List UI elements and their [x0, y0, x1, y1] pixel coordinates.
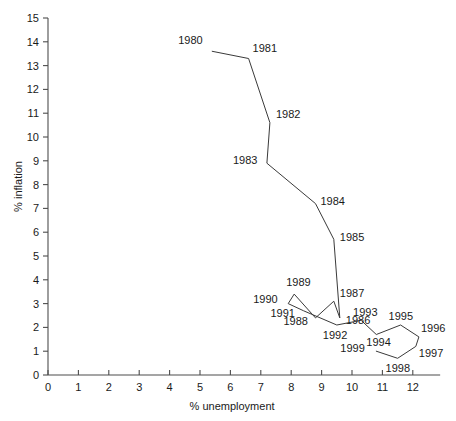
y-axis-ticks — [43, 18, 48, 375]
y-tick-label: 4 — [33, 274, 39, 286]
x-tick-label: 10 — [346, 381, 358, 393]
x-tick-label: 2 — [106, 381, 112, 393]
phillips-curve-chart: 0123456789101112131415 0123456789101112 … — [0, 0, 456, 421]
x-tick-label: 6 — [227, 381, 233, 393]
y-tick-label: 8 — [33, 179, 39, 191]
y-tick-label: 0 — [33, 369, 39, 381]
data-point-label: 1998 — [386, 362, 410, 374]
y-tick-label: 14 — [27, 36, 39, 48]
plot-area: 0123456789101112131415 0123456789101112 … — [12, 12, 445, 412]
data-point-label: 1982 — [276, 108, 300, 120]
data-point-label: 1990 — [253, 293, 277, 305]
x-tick-label: 7 — [258, 381, 264, 393]
data-point-label: 1995 — [389, 310, 413, 322]
data-point-label: 1984 — [321, 195, 345, 207]
y-tick-label: 2 — [33, 321, 39, 333]
y-tick-label: 13 — [27, 60, 39, 72]
y-tick-label: 12 — [27, 83, 39, 95]
data-point-label: 1997 — [419, 347, 443, 359]
data-point-label: 1981 — [253, 42, 277, 54]
data-point-label: 1980 — [178, 34, 202, 46]
x-axis-tick-labels: 0123456789101112 — [45, 381, 419, 393]
x-axis-ticks — [48, 370, 413, 375]
y-tick-label: 15 — [27, 12, 39, 24]
y-tick-label: 6 — [33, 226, 39, 238]
x-tick-label: 11 — [377, 381, 388, 393]
data-point-label: 1992 — [323, 329, 347, 341]
x-tick-label: 12 — [407, 381, 419, 393]
data-point-label: 1991 — [270, 307, 294, 319]
chart-canvas: 0123456789101112131415 0123456789101112 … — [0, 0, 456, 421]
y-tick-label: 11 — [28, 107, 39, 119]
data-point-label: 1989 — [286, 276, 310, 288]
y-axis-tick-labels: 0123456789101112131415 — [27, 12, 39, 381]
data-point-labels: 1980198119821983198419851986198719881989… — [178, 34, 445, 374]
data-point-label: 1993 — [353, 306, 377, 318]
x-tick-label: 1 — [75, 381, 81, 393]
data-point-label: 1999 — [340, 342, 364, 354]
data-point-label: 1994 — [366, 336, 390, 348]
x-tick-label: 0 — [45, 381, 51, 393]
data-point-label: 1987 — [340, 287, 364, 299]
y-axis-title: % inflation — [12, 161, 24, 212]
x-tick-label: 5 — [197, 381, 203, 393]
y-tick-label: 10 — [27, 131, 39, 143]
y-tick-label: 5 — [33, 250, 39, 262]
y-tick-label: 1 — [33, 345, 39, 357]
y-tick-label: 7 — [33, 202, 39, 214]
y-tick-label: 9 — [33, 155, 39, 167]
data-point-label: 1983 — [233, 154, 257, 166]
x-tick-label: 9 — [319, 381, 325, 393]
data-point-label: 1996 — [421, 322, 445, 334]
x-tick-label: 3 — [136, 381, 142, 393]
data-point-label: 1985 — [340, 231, 364, 243]
x-tick-label: 4 — [167, 381, 173, 393]
x-tick-label: 8 — [288, 381, 294, 393]
y-tick-label: 3 — [33, 298, 39, 310]
x-axis-title: % unemployment — [190, 400, 275, 412]
